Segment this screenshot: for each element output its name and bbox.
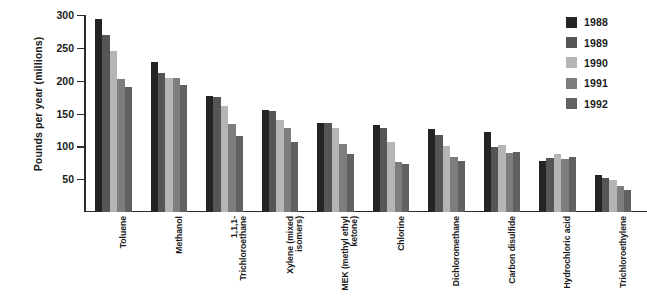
legend-item: 1991 (566, 73, 608, 93)
bar-group (428, 15, 465, 212)
legend: 19881989199019911992 (566, 12, 608, 114)
y-tick-mark (77, 114, 84, 115)
bar-group (262, 15, 299, 212)
bar (539, 161, 546, 212)
legend-label: 1990 (584, 57, 608, 69)
bar (102, 35, 109, 212)
bar (617, 186, 624, 212)
x-axis-label: Hydrochloric acid (563, 216, 572, 289)
legend-label: 1992 (584, 98, 608, 110)
x-axis-labels: TolueneMethanol1,1,1-TrichloroethaneXyle… (84, 216, 647, 304)
y-tick-label: 200 (56, 75, 74, 87)
bar (284, 128, 291, 212)
x-axis-label: Trichloroethylene (619, 216, 628, 288)
bar (324, 123, 331, 212)
bar (95, 19, 102, 212)
bar (498, 145, 505, 212)
bar (228, 124, 235, 212)
x-axis-label: Toluene (119, 216, 128, 248)
legend-swatch (566, 17, 577, 28)
bar-group (373, 15, 410, 212)
y-tick-label: 250 (56, 42, 74, 54)
y-tick-label: 50 (62, 173, 74, 185)
bar (561, 159, 568, 212)
legend-item: 1988 (566, 12, 608, 32)
bar (117, 79, 124, 212)
legend-label: 1991 (584, 77, 608, 89)
bar-group (484, 15, 521, 212)
x-axis-label: MEK (methyl ethylketone) (341, 216, 360, 291)
bar (276, 120, 283, 212)
bar (221, 106, 228, 212)
bar (110, 51, 117, 212)
x-axis-label: Carbon disulfide (508, 216, 517, 284)
legend-swatch (566, 78, 577, 89)
bar (443, 146, 450, 212)
legend-item: 1992 (566, 94, 608, 114)
bar (458, 161, 465, 212)
bar (428, 129, 435, 212)
bar (332, 128, 339, 212)
bar (395, 162, 402, 212)
y-tick-mark (77, 146, 84, 147)
bar (506, 153, 513, 212)
bar (595, 175, 602, 212)
legend-swatch (566, 57, 577, 68)
bar (151, 62, 158, 212)
x-axis-label: Chlorine (397, 216, 406, 251)
bar (213, 97, 220, 212)
x-axis-label: 1,1,1-Trichloroethane (230, 216, 249, 280)
bar (387, 142, 394, 212)
y-tick-label: 300 (56, 9, 74, 21)
bar (602, 178, 609, 212)
bar (180, 85, 187, 212)
legend-swatch (566, 98, 577, 109)
legend-label: 1988 (584, 16, 608, 28)
bar (513, 152, 520, 212)
bar (317, 123, 324, 212)
bar (173, 78, 180, 212)
bar (402, 164, 409, 212)
legend-item: 1990 (566, 53, 608, 73)
bar (546, 158, 553, 213)
y-axis-title: Pounds per year (millions) (32, 4, 44, 204)
bar (609, 180, 616, 212)
bar (450, 157, 457, 212)
plot-area: 50100150200250300 (84, 15, 534, 212)
y-tick-label: 100 (56, 140, 74, 152)
x-axis-label: Methanol (175, 216, 184, 254)
bar (347, 154, 354, 212)
bar-group (151, 15, 188, 212)
bar (236, 136, 243, 212)
bar (380, 128, 387, 212)
bar (262, 110, 269, 212)
bar (125, 87, 132, 212)
bar (373, 125, 380, 212)
bar-chart: Pounds per year (millions) 5010015020025… (0, 0, 647, 304)
y-tick-mark (77, 81, 84, 82)
x-axis-label: Dichloromethane (452, 216, 461, 286)
x-axis-label: Xylene (mixedisomers) (286, 216, 305, 274)
bar (291, 142, 298, 212)
y-tick-mark (77, 179, 84, 180)
bar (158, 73, 165, 212)
bar-group (317, 15, 354, 212)
legend-item: 1989 (566, 32, 608, 52)
bar (624, 190, 631, 212)
bar-groups (84, 15, 534, 212)
bar (206, 96, 213, 212)
legend-label: 1989 (584, 37, 608, 49)
y-tick-mark (77, 48, 84, 49)
bar (165, 78, 172, 212)
bar-group (95, 15, 132, 212)
bar (435, 135, 442, 212)
bar-group (206, 15, 243, 212)
bar (554, 154, 561, 212)
bar (569, 157, 576, 212)
bar (491, 147, 498, 212)
legend-swatch (566, 37, 577, 48)
bar (269, 111, 276, 212)
y-tick-label: 150 (56, 108, 74, 120)
y-tick-mark (77, 15, 84, 16)
bar (484, 132, 491, 212)
